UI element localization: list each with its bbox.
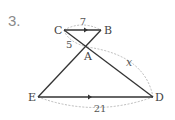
segment-cd xyxy=(64,30,153,97)
length-ad-label: x xyxy=(126,56,133,69)
length-ed-label: 21 xyxy=(94,103,107,114)
parallel-arrow-icon xyxy=(84,28,88,33)
length-cb-label: 7 xyxy=(80,16,86,27)
parallel-arrow-icon xyxy=(88,95,92,100)
point-b-label: B xyxy=(104,24,112,37)
length-ca-label: 5 xyxy=(66,39,72,50)
point-a-label: A xyxy=(83,50,93,63)
point-c-label: C xyxy=(54,24,62,37)
geometry-figure: C B A E D 7 5 x 21 xyxy=(0,0,175,120)
point-e-label: E xyxy=(28,91,36,104)
point-d-label: D xyxy=(155,91,164,104)
